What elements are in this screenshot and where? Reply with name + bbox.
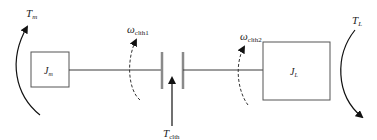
motor-torque-label: Tm <box>26 7 37 21</box>
clutch-speed-1-label: ωclth1 <box>127 23 149 37</box>
load-torque-label: TL <box>352 14 362 28</box>
clutch-speed-2-label: ωclth2 <box>240 30 262 44</box>
clutch-speed-2-arrow <box>238 47 248 105</box>
load-torque-arrow <box>341 30 362 117</box>
clutch-drivetrain-diagram: Tm Jm ωclth1 Tclth ωclth2 JL TL <box>0 0 377 140</box>
motor-inertia-box <box>31 52 69 87</box>
load-inertia-box <box>263 42 330 100</box>
clutch-torque-label: Tclth <box>163 127 180 140</box>
